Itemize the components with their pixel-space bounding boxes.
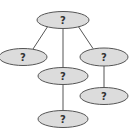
node-right-child: ? bbox=[80, 88, 128, 105]
edge-root-left bbox=[33, 26, 48, 49]
edge-root-right bbox=[78, 26, 93, 49]
node-middle-child: ? bbox=[38, 111, 88, 128]
node-right: ? bbox=[80, 48, 128, 66]
node-middle: ? bbox=[38, 68, 88, 85]
node-left: ? bbox=[0, 49, 47, 66]
node-label: ? bbox=[101, 91, 107, 102]
node-label: ? bbox=[60, 15, 66, 26]
tree-diagram: ? ? ? ? ? ? bbox=[0, 0, 139, 133]
node-label: ? bbox=[101, 52, 107, 63]
node-label: ? bbox=[60, 71, 66, 82]
node-label: ? bbox=[20, 52, 26, 63]
node-root: ? bbox=[37, 12, 89, 29]
node-label: ? bbox=[60, 114, 66, 125]
